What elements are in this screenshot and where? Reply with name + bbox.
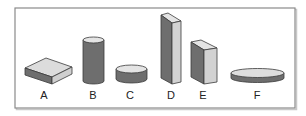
shape-b-tall-cylinder: [83, 37, 104, 84]
label-b: B: [89, 89, 96, 101]
shape-e-medium-prism: [191, 40, 217, 84]
shapes-figure: A B C D E F: [0, 0, 306, 116]
shape-c-short-cylinder: [116, 65, 147, 83]
label-d: D: [167, 89, 175, 101]
label-f: F: [254, 89, 261, 101]
label-a: A: [40, 89, 48, 101]
shape-d-tall-prism: [161, 13, 181, 84]
label-e: E: [199, 89, 206, 101]
shape-f-flat-disc: [231, 69, 284, 83]
label-c: C: [126, 89, 134, 101]
